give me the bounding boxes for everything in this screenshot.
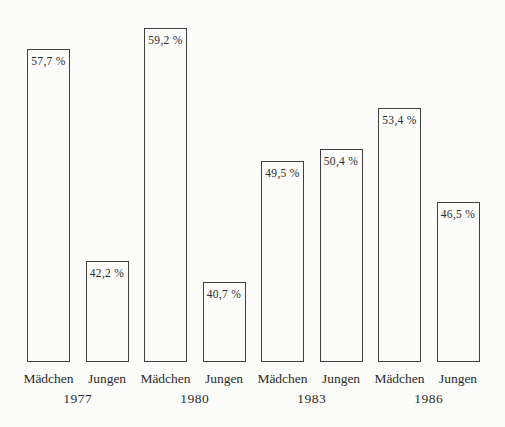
bar-madchen-1983: 49,5 % (261, 161, 304, 362)
chart-canvas: 57,7 %Mädchen42,2 %Jungen197759,2 %Mädch… (0, 0, 505, 427)
bar-jungen-1980: 40,7 % (203, 282, 246, 362)
bar-madchen-1986: 53,4 % (378, 108, 421, 362)
bar-value-label: 42,2 % (87, 267, 128, 279)
bar-value-label: 49,5 % (262, 167, 303, 179)
bar-value-label: 57,7 % (28, 55, 69, 67)
bar-madchen-1980: 59,2 % (144, 28, 187, 362)
year-label-1983: 1983 (267, 391, 357, 407)
bar-jungen-1977: 42,2 % (86, 261, 129, 362)
year-label-1986: 1986 (384, 391, 474, 407)
bar-jungen-1983: 50,4 % (320, 149, 363, 362)
bar-value-label: 59,2 % (145, 34, 186, 46)
bar-value-label: 50,4 % (321, 155, 362, 167)
bar-value-label: 53,4 % (379, 114, 420, 126)
bar-value-label: 46,5 % (438, 208, 479, 220)
year-label-1977: 1977 (33, 391, 123, 407)
bar-jungen-1986: 46,5 % (437, 202, 480, 362)
bar-madchen-1977: 57,7 % (27, 49, 70, 362)
bar-category-label: Jungen (415, 371, 502, 387)
bar-value-label: 40,7 % (204, 288, 245, 300)
year-label-1980: 1980 (150, 391, 240, 407)
